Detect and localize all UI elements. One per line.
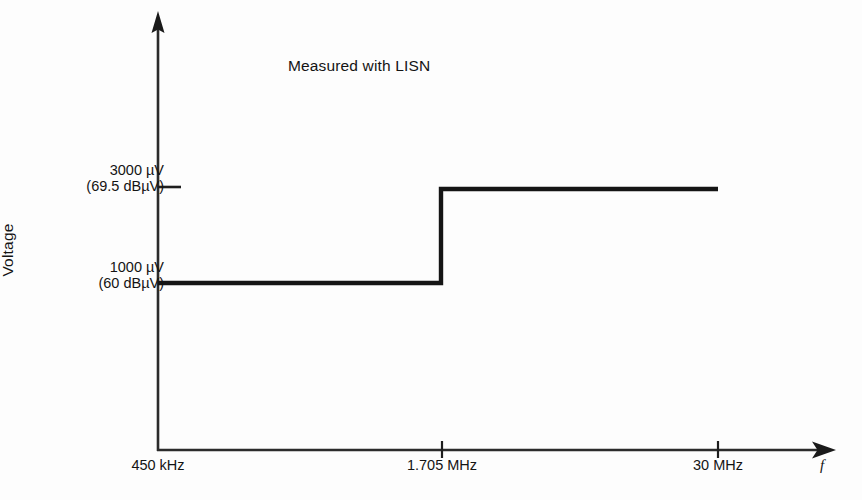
- x-tick-label-450khz: 450 kHz: [118, 458, 198, 474]
- y-tick-1000uv-microvolts: 1000 µV: [98, 260, 164, 276]
- y-tick-label-3000uv: 3000 µV (69.5 dBµV): [86, 163, 164, 194]
- y-axis-title: Voltage: [0, 222, 17, 278]
- chart-annotation-text: Measured with LISN: [288, 58, 430, 75]
- x-axis: [157, 442, 836, 459]
- figure-caption: [150, 486, 710, 499]
- y-tick-label-1000uv: 1000 µV (60 dBµV): [98, 260, 164, 291]
- emission-limit-chart: Measured with LISN Voltage 3000 µV (69.5…: [0, 0, 862, 500]
- y-tick-3000uv-microvolts: 3000 µV: [86, 163, 164, 179]
- chart-plot-area: [0, 0, 862, 500]
- x-tick-label-30mhz: 30 MHz: [676, 458, 760, 474]
- x-axis-variable-label: f: [820, 457, 824, 473]
- y-tick-1000uv-dbuv: (60 dBµV): [98, 276, 164, 292]
- x-tick-label-1705mhz: 1.705 MHz: [390, 458, 494, 474]
- limit-step-curve: [158, 189, 718, 283]
- y-axis: [152, 11, 165, 451]
- y-tick-3000uv-dbuv: (69.5 dBµV): [86, 179, 164, 195]
